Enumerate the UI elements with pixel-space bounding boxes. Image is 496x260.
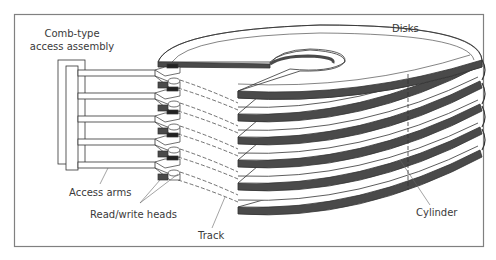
label-comb-type: Comb-type <box>44 28 99 39</box>
access-arm-5 <box>78 162 155 168</box>
assembly-front-bar <box>66 66 78 170</box>
access-arm-1 <box>78 70 155 76</box>
access-arm-4 <box>78 139 155 145</box>
disk-storage-diagram: Comb-type access assembly Disks Access a… <box>0 0 496 260</box>
access-arm-2 <box>78 93 155 99</box>
label-read-write-heads: Read/write heads <box>90 209 177 220</box>
comb-access-assembly <box>58 60 85 170</box>
label-access-arms: Access arms <box>69 187 131 198</box>
label-cylinder: Cylinder <box>416 207 458 218</box>
label-track: Track <box>197 230 224 241</box>
label-disks: Disks <box>392 23 419 34</box>
label-access-assembly: access assembly <box>30 41 114 52</box>
access-arm-3 <box>78 116 155 122</box>
